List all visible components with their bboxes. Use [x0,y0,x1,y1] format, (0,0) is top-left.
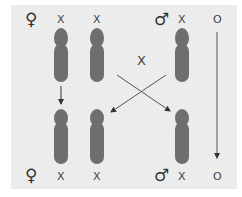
parent-female-chromosome-2 [90,28,104,82]
arrow-female-to-male [117,75,170,111]
parent-male-chromosome-x [175,28,189,82]
cross-label: X [137,54,146,67]
label-x-parent-female-1: X [57,14,65,25]
label-o-offspring-male: O [213,171,222,182]
parent-female-chromosome-1 [54,28,68,82]
female-symbol-top: ♀ [25,11,37,28]
offspring-male-chromosome-x [175,109,189,164]
label-x-parent-female-2: X [93,14,101,25]
label-x-offspring-female-2: X [93,171,101,182]
offspring-female-chromosome-1 [54,109,68,164]
offspring-female-chromosome-2 [90,109,104,164]
female-symbol-bottom: ♀ [25,167,37,184]
label-x-parent-male: X [178,14,186,25]
label-o-parent-male: O [213,14,222,25]
male-symbol-top: ♂ [154,11,169,28]
label-x-offspring-female-1: X [57,171,65,182]
arrow-male-to-female [111,75,166,112]
label-x-offspring-male: X [178,171,186,182]
male-symbol-bottom: ♂ [154,167,169,184]
